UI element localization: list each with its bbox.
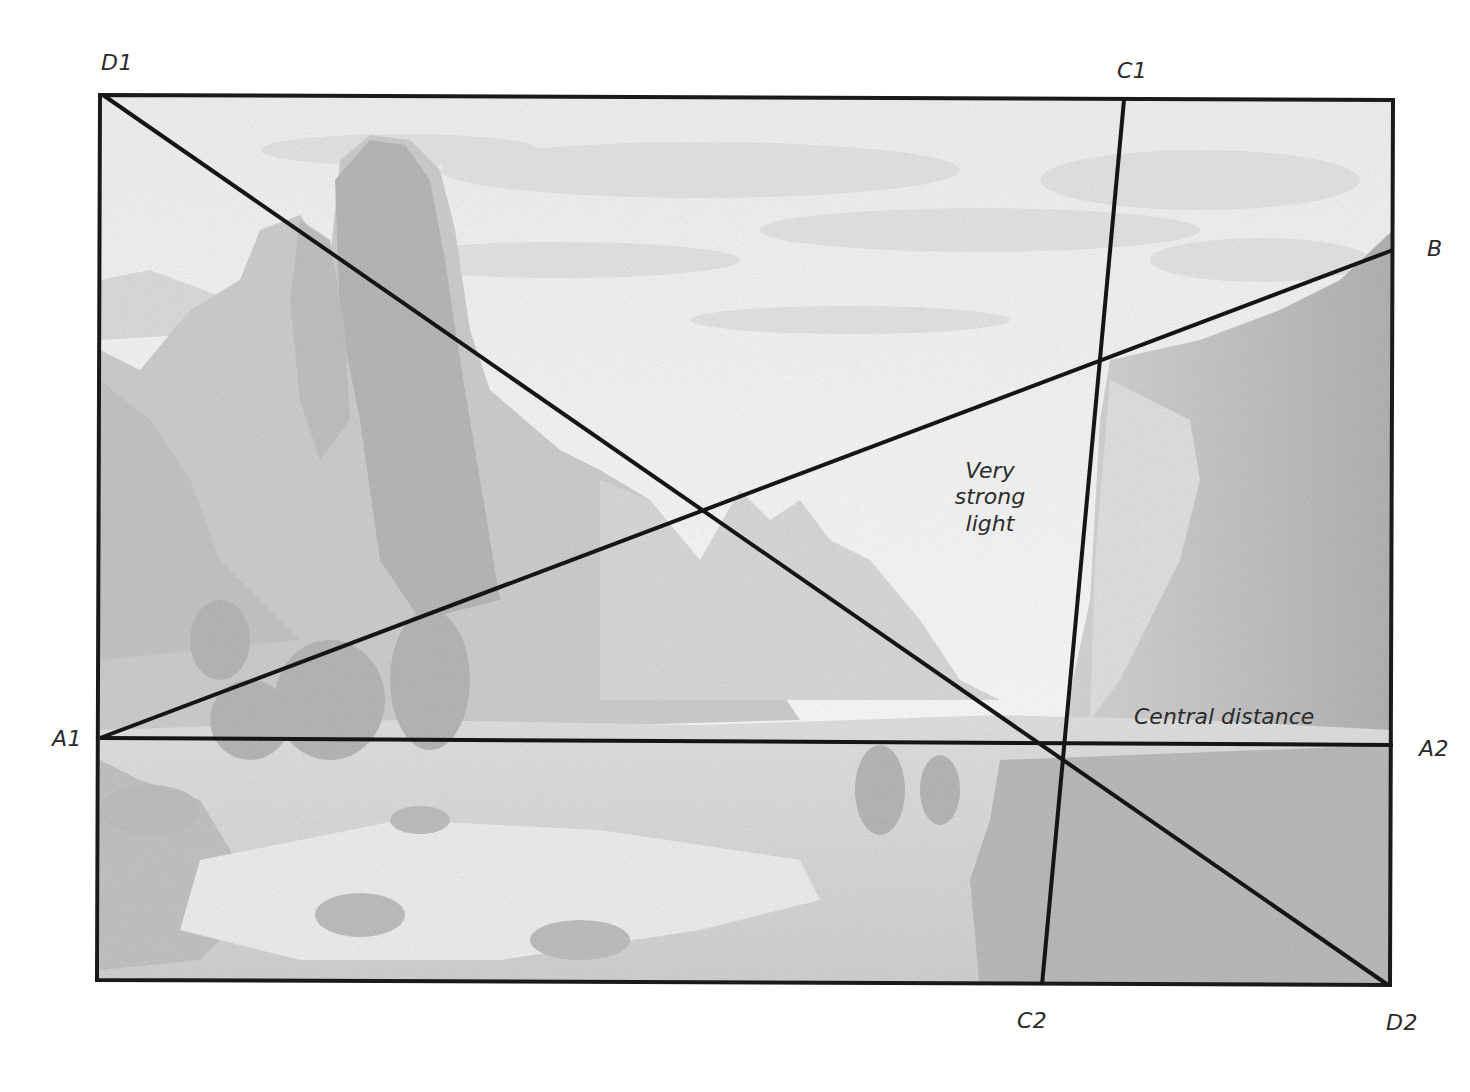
label-a2: A2 (1419, 738, 1449, 760)
annotation-line-3: light (938, 511, 1042, 537)
annotation-very-strong-light: Very strong light (938, 458, 1042, 537)
annotation-line-2: strong (938, 484, 1042, 510)
label-c2: C2 (1017, 1010, 1047, 1032)
label-d1: D1 (101, 52, 133, 74)
annotation-central-distance: Central distance (1134, 704, 1314, 730)
composition-diagram: D1 C1 B A1 A2 C2 D2 Very strong light Ce… (0, 0, 1470, 1092)
label-a1: A1 (52, 728, 82, 750)
drawing-canvas (0, 0, 1470, 1092)
label-c1: C1 (1117, 60, 1147, 82)
annotation-line-1: Very (938, 458, 1042, 484)
label-d2: D2 (1386, 1012, 1418, 1034)
label-b: B (1427, 238, 1443, 260)
